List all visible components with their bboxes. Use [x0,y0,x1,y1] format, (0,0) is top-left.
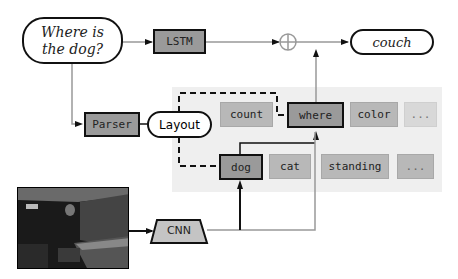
module-more-row1-label: ... [411,108,431,121]
room-photo [18,188,129,269]
module-more-row1: ... [404,102,437,127]
layout-label: Layout [159,118,200,132]
module-dog: dog [219,154,263,180]
answer-node: couch [350,29,434,55]
parser-node: Parser [84,112,140,137]
module-more-row2-label: ... [406,160,426,173]
edge-cnn-where [207,132,315,230]
module-where-label: where [299,109,332,122]
question-line-2: the dog? [42,41,103,58]
parser-label: Parser [92,118,132,131]
edge-layout-dog [179,137,220,166]
question-node: Where is the dog? [22,17,123,64]
input-image [17,187,129,269]
module-dog-label: dog [231,161,251,174]
cnn-label: CNN [151,224,207,237]
module-count: count [220,102,273,127]
module-count-label: count [230,108,263,121]
module-color: color [350,102,398,127]
question-line-1: Where is [41,24,104,41]
layout-node: Layout [147,111,212,138]
answer-label: couch [372,35,411,50]
module-where: where [287,102,344,128]
module-more-row2: ... [397,154,434,179]
module-standing-label: standing [329,160,382,173]
lstm-label: LSTM [166,35,193,48]
lstm-node: LSTM [153,29,206,54]
module-cat-label: cat [280,160,300,173]
module-standing: standing [321,154,389,179]
module-cat: cat [269,154,311,179]
combine-node [280,34,296,50]
module-color-label: color [357,108,390,121]
edge-question-parser [72,63,76,124]
